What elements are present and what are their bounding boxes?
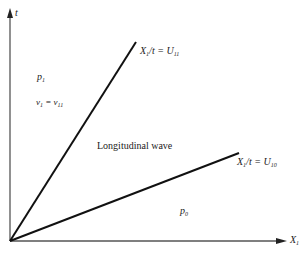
line-u10-label: X1/t = U10 (237, 156, 277, 168)
region-p0-label: p0 (180, 205, 188, 217)
t-axis-label: t (15, 7, 18, 18)
wave-line-u10 (10, 153, 239, 241)
line-u11-label: X1/t = U11 (140, 45, 179, 57)
region-p1-label: p1 (37, 71, 45, 83)
x1-axis-label: X1 (290, 234, 299, 246)
region-v1-label: v1 = v11 (36, 97, 63, 108)
t-axis-arrow-icon (7, 8, 13, 18)
region-longitudinal-wave-label: Longitudinal wave (97, 140, 172, 151)
x1-axis-arrow-icon (276, 238, 287, 244)
wave-diagram (0, 0, 302, 254)
